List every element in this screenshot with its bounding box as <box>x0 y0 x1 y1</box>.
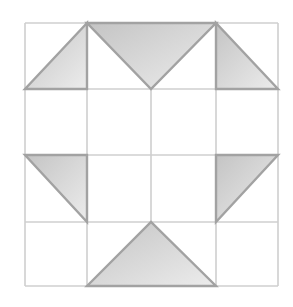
quilt-diagram <box>0 0 293 307</box>
triangle-middle-right <box>216 155 278 222</box>
triangle-middle-left <box>25 155 87 222</box>
diagram-canvas <box>0 0 293 307</box>
triangle-top-center <box>87 23 216 89</box>
triangle-bottom-center <box>87 222 216 286</box>
triangle-top-right <box>216 23 278 89</box>
triangle-top-left <box>25 23 87 89</box>
